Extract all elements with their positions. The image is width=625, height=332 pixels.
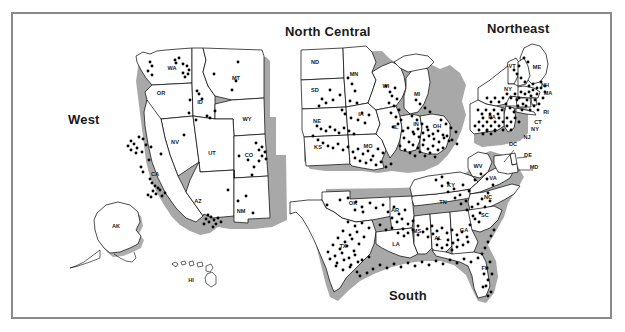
data-dot bbox=[155, 193, 158, 196]
data-dot bbox=[264, 151, 267, 154]
state-label-co: CO bbox=[245, 152, 254, 158]
data-dot bbox=[325, 102, 328, 105]
data-dot bbox=[159, 189, 162, 192]
state-label-hi: HI bbox=[188, 277, 194, 283]
state-label-ga: GA bbox=[460, 227, 468, 233]
data-dot bbox=[205, 218, 208, 221]
data-dot bbox=[213, 73, 216, 76]
data-dot bbox=[206, 115, 209, 118]
region-south[interactable] bbox=[290, 150, 533, 303]
data-dot bbox=[484, 247, 487, 250]
data-dot bbox=[353, 250, 356, 253]
data-dot bbox=[182, 63, 185, 66]
data-dot bbox=[411, 115, 414, 118]
data-dot bbox=[334, 255, 337, 258]
data-dot bbox=[227, 189, 230, 192]
state-label-oh: OH bbox=[433, 123, 441, 129]
data-dot bbox=[208, 221, 211, 224]
data-dot bbox=[329, 258, 332, 261]
data-dot bbox=[253, 166, 256, 169]
data-dot bbox=[343, 127, 346, 130]
data-dot bbox=[494, 97, 497, 100]
data-dot bbox=[149, 61, 152, 64]
data-dot bbox=[450, 127, 453, 130]
data-dot bbox=[427, 236, 430, 239]
data-dot bbox=[135, 152, 138, 155]
data-dot bbox=[334, 129, 337, 132]
data-dot bbox=[332, 147, 335, 150]
data-dot bbox=[502, 121, 505, 124]
state-label-ri: RI bbox=[543, 109, 549, 115]
data-dot bbox=[350, 117, 353, 120]
data-dot bbox=[368, 227, 371, 230]
state-label-wi: WI bbox=[383, 83, 390, 89]
data-dot bbox=[489, 261, 492, 264]
data-dot bbox=[435, 179, 438, 182]
data-dot bbox=[341, 252, 344, 255]
data-dot bbox=[247, 159, 250, 162]
data-dot bbox=[441, 227, 444, 230]
data-dot bbox=[477, 203, 480, 206]
data-dot bbox=[498, 101, 501, 104]
data-dot bbox=[375, 164, 378, 167]
state-label-ny: NY bbox=[531, 126, 539, 132]
data-dot bbox=[456, 246, 459, 249]
data-dot bbox=[127, 145, 130, 148]
state-label-az: AZ bbox=[194, 198, 202, 204]
data-dot bbox=[145, 144, 148, 147]
data-dot bbox=[207, 214, 210, 217]
state-label-me: ME bbox=[533, 64, 542, 70]
data-dot bbox=[161, 195, 164, 198]
data-dot bbox=[151, 74, 154, 77]
data-dot bbox=[432, 133, 435, 136]
state-label-la: LA bbox=[392, 241, 399, 247]
data-dot bbox=[354, 225, 357, 228]
data-dot bbox=[422, 231, 425, 234]
data-dot bbox=[382, 204, 385, 207]
data-dot bbox=[367, 150, 370, 153]
data-dot bbox=[141, 151, 144, 154]
data-dot bbox=[443, 137, 446, 140]
data-dot bbox=[335, 265, 338, 268]
data-dot bbox=[368, 256, 371, 259]
data-dot bbox=[441, 176, 444, 179]
data-dot bbox=[456, 234, 459, 237]
data-dot bbox=[436, 244, 439, 247]
data-dot bbox=[352, 151, 355, 154]
data-dot bbox=[528, 85, 531, 88]
data-dot bbox=[520, 91, 523, 94]
data-dot bbox=[490, 101, 493, 104]
data-dot bbox=[351, 238, 354, 241]
data-dot bbox=[130, 140, 133, 143]
data-dot bbox=[538, 103, 541, 106]
data-dot bbox=[321, 98, 324, 101]
data-dot bbox=[252, 212, 255, 215]
data-dot bbox=[509, 107, 512, 110]
data-dot bbox=[431, 225, 434, 228]
data-dot bbox=[506, 93, 509, 96]
data-dot bbox=[482, 286, 485, 289]
data-dot bbox=[338, 132, 341, 135]
data-dot bbox=[347, 146, 350, 149]
state-label-sc: SC bbox=[481, 212, 489, 218]
data-dot bbox=[184, 76, 187, 79]
state-label-il: IL bbox=[394, 124, 400, 130]
data-dot bbox=[427, 148, 430, 151]
data-dot bbox=[182, 72, 185, 75]
state-label-tx: TX bbox=[339, 243, 346, 249]
data-dot bbox=[368, 114, 371, 117]
data-dot bbox=[414, 155, 417, 158]
state-label-mo: MO bbox=[363, 143, 373, 149]
data-dot bbox=[198, 93, 201, 96]
data-dot bbox=[342, 230, 345, 233]
data-dot bbox=[447, 191, 450, 194]
state-label-nj: NJ bbox=[523, 134, 530, 140]
state-label-fl: FL bbox=[482, 265, 489, 271]
data-dot bbox=[214, 110, 217, 113]
data-dot bbox=[486, 178, 489, 181]
data-dot bbox=[477, 257, 480, 260]
data-dot bbox=[427, 129, 430, 132]
data-dot bbox=[525, 105, 528, 108]
data-dot bbox=[140, 166, 143, 169]
data-dot bbox=[154, 185, 157, 188]
